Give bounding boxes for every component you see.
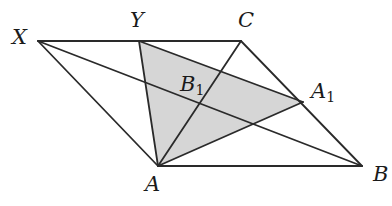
label-letter: A [311,79,326,103]
label-letter: A [145,172,160,196]
label-letter: Y [130,8,144,32]
label-point-Y: Y [130,10,144,31]
shaded-triangle-A-Y-A1 [139,41,303,166]
geometry-diagram: XYCB1A1AB [0,0,392,206]
label-point-B: B [373,164,388,185]
label-point-A1: A1 [311,81,335,104]
label-point-A: A [145,174,160,195]
label-point-X: X [12,27,27,48]
label-point-B1: B1 [180,74,204,97]
label-letter: C [238,8,254,32]
label-point-C: C [238,10,254,31]
label-subscript: 1 [326,89,335,105]
segment-A-X [38,41,158,166]
label-letter: B [180,72,195,96]
label-letter: B [373,162,388,186]
label-letter: X [12,25,27,49]
label-subscript: 1 [195,82,204,98]
